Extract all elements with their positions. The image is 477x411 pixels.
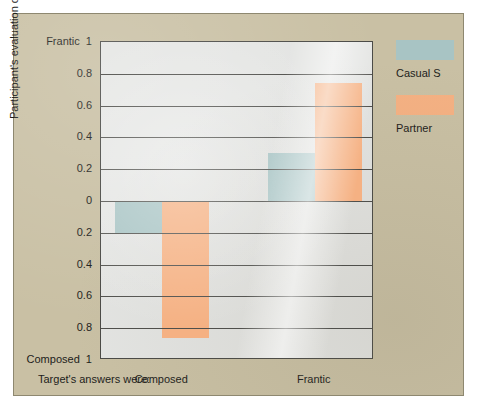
chart-legend: Casual SPartner (396, 40, 458, 150)
gridline (101, 265, 372, 266)
gridline (101, 233, 372, 234)
x-axis-tick-label: Composed (135, 373, 188, 385)
legend-label: Partner (396, 122, 458, 134)
y-axis-tick-label: 0 (32, 194, 92, 206)
y-axis-tick-label: 0.6 (32, 99, 92, 111)
y-axis-tick-label: 0.4 (32, 130, 92, 142)
gridline (101, 296, 372, 297)
bar-casual-s-frantic (268, 153, 315, 201)
legend-swatch (396, 95, 454, 115)
zero-line (101, 201, 372, 202)
plot-area (100, 41, 373, 359)
bar-partner-frantic (315, 83, 362, 201)
bar-casual-s-composed (115, 201, 162, 233)
gridline (101, 137, 372, 138)
y-axis-tick-label: 0.8 (32, 321, 92, 333)
gridline (101, 74, 372, 75)
y-axis-label: Participant's evaluation of the target (8, 0, 20, 119)
figure-canvas: Participant's evaluation of the target F… (0, 0, 477, 411)
legend-label: Casual S (396, 67, 458, 79)
y-axis-tick-label: 0.4 (32, 258, 92, 270)
y-axis-tick-label: Frantic 1 (8, 35, 92, 47)
y-axis-tick-label: Composed 1 (8, 353, 92, 365)
y-axis-tick-label: 0.2 (32, 226, 92, 238)
bar-partner-composed (162, 201, 209, 338)
x-axis-tick-label: Frantic (297, 373, 331, 385)
gridline (101, 106, 372, 107)
chart-panel: Participant's evaluation of the target F… (13, 13, 464, 396)
y-axis-tick-label: 0.2 (32, 162, 92, 174)
gridline (101, 169, 372, 170)
gridline (101, 328, 372, 329)
legend-swatch (396, 40, 454, 60)
x-axis-caption: Target's answers were: (38, 373, 150, 385)
y-axis-tick-label: 0.6 (32, 289, 92, 301)
y-axis-tick-label: 0.8 (32, 67, 92, 79)
